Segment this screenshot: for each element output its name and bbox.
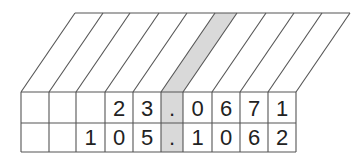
digit-cell: 6 bbox=[248, 125, 260, 150]
digit-cell: 1 bbox=[84, 125, 96, 150]
digit-cell: 1 bbox=[276, 96, 288, 121]
decimal-column-highlight-top bbox=[161, 13, 237, 92]
perspective-line bbox=[240, 13, 294, 92]
decimal-alignment-diagram: 23.0671105.1062 bbox=[0, 0, 364, 162]
digit-cell: 3 bbox=[141, 96, 153, 121]
grid bbox=[21, 13, 350, 152]
digit-cell: 6 bbox=[220, 96, 232, 121]
digit-cell: 0 bbox=[220, 125, 232, 150]
digit-cell: 0 bbox=[191, 96, 203, 121]
digit-cell: 5 bbox=[141, 125, 153, 150]
perspective-line bbox=[76, 13, 130, 92]
digit-cell: 0 bbox=[113, 125, 125, 150]
perspective-line bbox=[296, 13, 350, 92]
decimal-point: . bbox=[169, 125, 175, 150]
decimal-point: . bbox=[169, 96, 175, 121]
perspective-line bbox=[49, 13, 103, 92]
perspective-line bbox=[105, 13, 159, 92]
digit-cell: 7 bbox=[248, 96, 260, 121]
perspective-line bbox=[268, 13, 322, 92]
digit-cell: 2 bbox=[276, 125, 288, 150]
digit-cell: 1 bbox=[191, 125, 203, 150]
digit-cell: 2 bbox=[113, 96, 125, 121]
perspective-line bbox=[21, 13, 75, 92]
